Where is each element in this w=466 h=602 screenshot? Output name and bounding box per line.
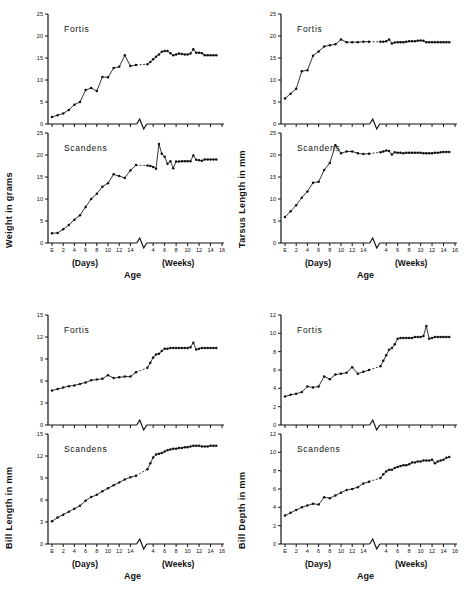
svg-text:16: 16 bbox=[452, 247, 458, 253]
svg-text:10: 10 bbox=[270, 330, 276, 336]
svg-text:4: 4 bbox=[273, 385, 276, 391]
svg-text:20: 20 bbox=[37, 152, 43, 158]
panel-tarsus: 0510152025Fortis0510152025E2468101214468… bbox=[233, 0, 466, 301]
svg-text:Scandens: Scandens bbox=[297, 444, 340, 454]
svg-text:15: 15 bbox=[270, 174, 276, 180]
plot-billdep: 024681012Fortis024681012E246810121446810… bbox=[233, 301, 466, 602]
svg-text:10: 10 bbox=[105, 247, 111, 253]
svg-text:25: 25 bbox=[270, 11, 276, 17]
svg-text:2: 2 bbox=[62, 247, 65, 253]
svg-text:10: 10 bbox=[270, 77, 276, 83]
panel-billlen: 03691215Fortis03691215E24681012144681012… bbox=[0, 301, 233, 602]
svg-text:Scandens: Scandens bbox=[64, 444, 107, 454]
svg-text:4: 4 bbox=[73, 247, 76, 253]
svg-text:0: 0 bbox=[273, 541, 276, 547]
svg-text:12: 12 bbox=[116, 247, 122, 253]
svg-text:9: 9 bbox=[40, 475, 43, 481]
svg-text:2: 2 bbox=[273, 523, 276, 529]
svg-text:15: 15 bbox=[37, 174, 43, 180]
svg-text:2: 2 bbox=[273, 404, 276, 410]
svg-text:10: 10 bbox=[417, 247, 423, 253]
svg-text:8: 8 bbox=[95, 247, 98, 253]
svg-text:8: 8 bbox=[175, 548, 178, 554]
svg-text:15: 15 bbox=[37, 312, 43, 318]
x-axis-title: Age bbox=[124, 571, 141, 581]
svg-text:14: 14 bbox=[207, 247, 213, 253]
plot-weight: 0510152025Fortis0510152025E2468101214468… bbox=[0, 0, 233, 301]
svg-text:14: 14 bbox=[440, 247, 446, 253]
svg-text:4: 4 bbox=[385, 548, 388, 554]
svg-text:12: 12 bbox=[429, 247, 435, 253]
svg-text:4: 4 bbox=[152, 548, 155, 554]
svg-text:8: 8 bbox=[273, 349, 276, 355]
svg-text:15: 15 bbox=[270, 55, 276, 61]
svg-text:6: 6 bbox=[163, 548, 166, 554]
svg-text:8: 8 bbox=[408, 247, 411, 253]
x-axis-title: Age bbox=[357, 270, 374, 280]
svg-text:12: 12 bbox=[37, 453, 43, 459]
y-axis-label-billdep: Bill Depth in mm bbox=[237, 359, 247, 549]
x-axis-weeks-label: (Weeks) bbox=[162, 258, 194, 268]
svg-text:10: 10 bbox=[184, 247, 190, 253]
svg-text:10: 10 bbox=[184, 548, 190, 554]
svg-text:25: 25 bbox=[37, 11, 43, 17]
svg-text:8: 8 bbox=[328, 548, 331, 554]
x-axis-days-label: (Days) bbox=[305, 258, 331, 268]
svg-text:4: 4 bbox=[306, 548, 309, 554]
svg-text:25: 25 bbox=[37, 130, 43, 136]
svg-text:20: 20 bbox=[270, 33, 276, 39]
y-axis-label-billlen: Bill Length in mm bbox=[4, 359, 14, 549]
svg-text:6: 6 bbox=[317, 548, 320, 554]
svg-text:12: 12 bbox=[270, 431, 276, 437]
svg-text:9: 9 bbox=[40, 356, 43, 362]
x-axis-weeks-label: (Weeks) bbox=[162, 559, 194, 569]
svg-text:14: 14 bbox=[127, 247, 133, 253]
svg-text:14: 14 bbox=[127, 548, 133, 554]
svg-text:2: 2 bbox=[62, 548, 65, 554]
svg-text:4: 4 bbox=[73, 548, 76, 554]
y-axis-label-tarsus: Tarsus Length in mm bbox=[237, 58, 247, 248]
svg-text:15: 15 bbox=[37, 55, 43, 61]
svg-text:Scandens: Scandens bbox=[64, 143, 107, 153]
svg-text:12: 12 bbox=[116, 548, 122, 554]
svg-text:6: 6 bbox=[40, 497, 43, 503]
svg-text:10: 10 bbox=[37, 77, 43, 83]
svg-text:10: 10 bbox=[338, 247, 344, 253]
svg-text:E: E bbox=[50, 548, 54, 554]
x-axis-days-label: (Days) bbox=[305, 559, 331, 569]
svg-text:0: 0 bbox=[40, 422, 43, 428]
svg-text:10: 10 bbox=[338, 548, 344, 554]
svg-text:20: 20 bbox=[37, 33, 43, 39]
svg-text:5: 5 bbox=[40, 218, 43, 224]
svg-text:6: 6 bbox=[317, 247, 320, 253]
svg-text:8: 8 bbox=[273, 468, 276, 474]
svg-text:Fortis: Fortis bbox=[297, 24, 322, 34]
svg-text:6: 6 bbox=[273, 486, 276, 492]
svg-text:8: 8 bbox=[95, 548, 98, 554]
panel-billdep: 024681012Fortis024681012E246810121446810… bbox=[233, 301, 466, 602]
svg-text:0: 0 bbox=[273, 121, 276, 127]
svg-text:12: 12 bbox=[270, 312, 276, 318]
growth-curves-figure: 0510152025Fortis0510152025E2468101214468… bbox=[0, 0, 466, 602]
svg-text:0: 0 bbox=[40, 240, 43, 246]
svg-text:0: 0 bbox=[273, 240, 276, 246]
svg-text:6: 6 bbox=[396, 548, 399, 554]
svg-text:25: 25 bbox=[270, 130, 276, 136]
svg-text:6: 6 bbox=[163, 247, 166, 253]
svg-text:2: 2 bbox=[295, 247, 298, 253]
svg-text:4: 4 bbox=[273, 504, 276, 510]
svg-text:E: E bbox=[283, 548, 287, 554]
svg-text:5: 5 bbox=[40, 99, 43, 105]
svg-text:Fortis: Fortis bbox=[297, 325, 322, 335]
svg-text:6: 6 bbox=[40, 378, 43, 384]
svg-text:12: 12 bbox=[349, 247, 355, 253]
x-axis-title: Age bbox=[357, 571, 374, 581]
svg-text:12: 12 bbox=[429, 548, 435, 554]
svg-text:4: 4 bbox=[306, 247, 309, 253]
svg-text:6: 6 bbox=[396, 247, 399, 253]
svg-text:20: 20 bbox=[270, 152, 276, 158]
svg-text:14: 14 bbox=[440, 548, 446, 554]
svg-text:10: 10 bbox=[105, 548, 111, 554]
svg-text:10: 10 bbox=[270, 196, 276, 202]
svg-text:15: 15 bbox=[37, 431, 43, 437]
